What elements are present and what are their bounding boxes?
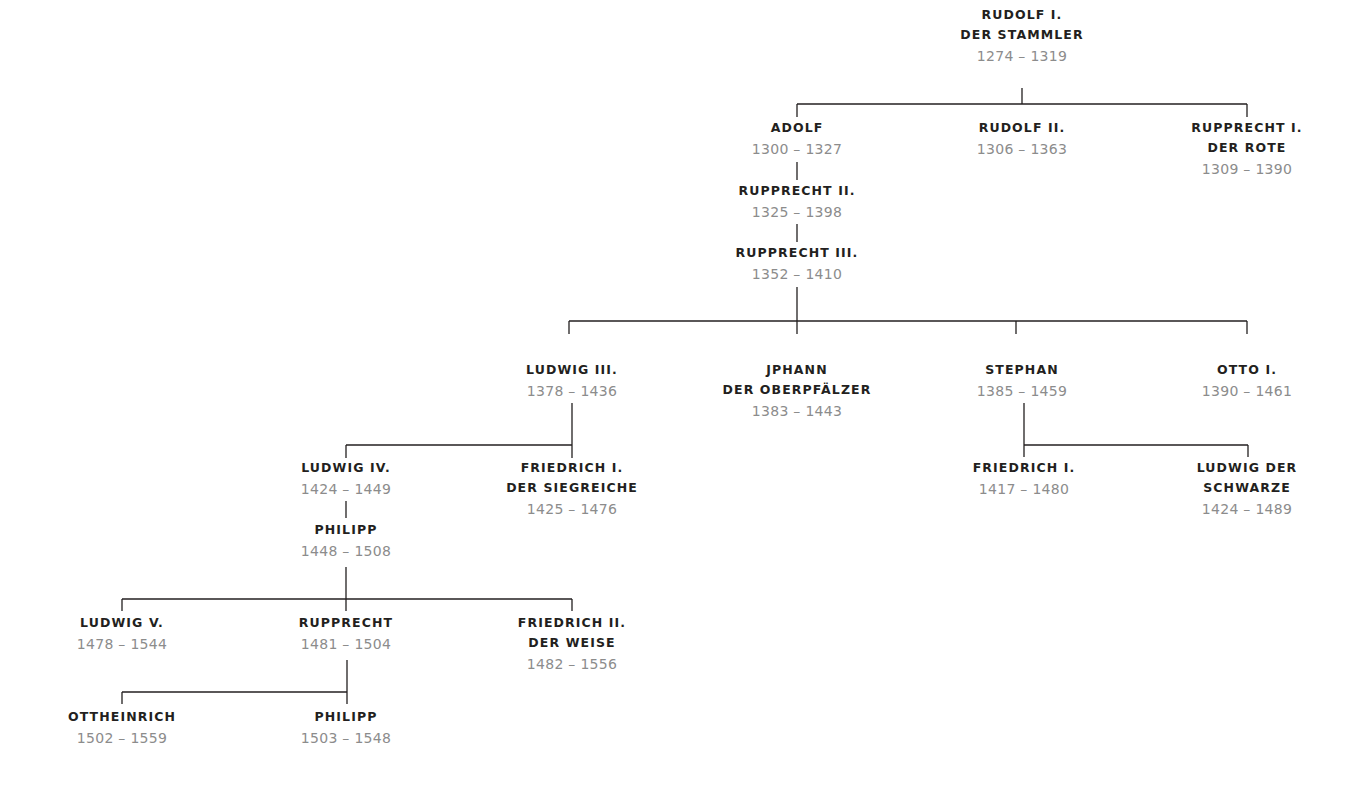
person-years: 1482 – 1556 <box>462 653 682 675</box>
person-name: LUDWIG DER <box>1137 458 1357 478</box>
person-ludwig-der-schwarze: LUDWIG DER SCHWARZE 1424 – 1489 <box>1137 458 1357 520</box>
person-name: RUPPRECHT II. <box>687 181 907 201</box>
person-ludwig-v: LUDWIG V. 1478 – 1544 <box>12 613 232 655</box>
person-adolf: ADOLF 1300 – 1327 <box>687 118 907 160</box>
person-rupprecht: RUPPRECHT 1481 – 1504 <box>236 613 456 655</box>
person-years: 1424 – 1449 <box>236 478 456 500</box>
person-years: 1390 – 1461 <box>1137 380 1357 402</box>
person-name: LUDWIG V. <box>12 613 232 633</box>
person-epithet: DER ROTE <box>1137 138 1357 158</box>
person-name: STEPHAN <box>912 360 1132 380</box>
person-rupprecht-iii: RUPPRECHT III. 1352 – 1410 <box>687 243 907 285</box>
person-epithet: DER WEISE <box>462 633 682 653</box>
person-years: 1481 – 1504 <box>236 633 456 655</box>
person-years: 1478 – 1544 <box>12 633 232 655</box>
person-name: LUDWIG III. <box>462 360 682 380</box>
person-rudolf-i: RUDOLF I. DER STAMMLER 1274 – 1319 <box>912 5 1132 67</box>
person-years: 1448 – 1508 <box>236 540 456 562</box>
person-years: 1309 – 1390 <box>1137 158 1357 180</box>
person-epithet: DER STAMMLER <box>912 25 1132 45</box>
person-ludwig-iv: LUDWIG IV. 1424 – 1449 <box>236 458 456 500</box>
person-years: 1424 – 1489 <box>1137 498 1357 520</box>
person-rupprecht-i: RUPPRECHT I. DER ROTE 1309 – 1390 <box>1137 118 1357 180</box>
person-name: OTTHEINRICH <box>12 707 232 727</box>
person-johann: JPHANN DER OBERPFÄLZER 1383 – 1443 <box>687 360 907 422</box>
person-name: RUDOLF I. <box>912 5 1132 25</box>
person-years: 1502 – 1559 <box>12 727 232 749</box>
person-rupprecht-ii: RUPPRECHT II. 1325 – 1398 <box>687 181 907 223</box>
person-name: RUPPRECHT <box>236 613 456 633</box>
person-years: 1503 – 1548 <box>236 727 456 749</box>
family-tree-diagram: RUDOLF I. DER STAMMLER 1274 – 1319 ADOLF… <box>0 0 1364 797</box>
person-name: RUPPRECHT I. <box>1137 118 1357 138</box>
person-name: RUPPRECHT III. <box>687 243 907 263</box>
person-stephan: STEPHAN 1385 – 1459 <box>912 360 1132 402</box>
person-philipp: PHILIPP 1448 – 1508 <box>236 520 456 562</box>
person-epithet: SCHWARZE <box>1137 478 1357 498</box>
person-years: 1378 – 1436 <box>462 380 682 402</box>
person-ludwig-iii: LUDWIG III. 1378 – 1436 <box>462 360 682 402</box>
person-epithet: DER SIEGREICHE <box>462 478 682 498</box>
person-years: 1417 – 1480 <box>914 478 1134 500</box>
person-years: 1306 – 1363 <box>912 138 1132 160</box>
person-philipp-2: PHILIPP 1503 – 1548 <box>236 707 456 749</box>
person-otto-i: OTTO I. 1390 – 1461 <box>1137 360 1357 402</box>
person-epithet: DER OBERPFÄLZER <box>687 380 907 400</box>
person-years: 1385 – 1459 <box>912 380 1132 402</box>
person-name: OTTO I. <box>1137 360 1357 380</box>
person-friedrich-i-der-siegreiche: FRIEDRICH I. DER SIEGREICHE 1425 – 1476 <box>462 458 682 520</box>
person-name: ADOLF <box>687 118 907 138</box>
person-years: 1383 – 1443 <box>687 400 907 422</box>
person-years: 1425 – 1476 <box>462 498 682 520</box>
person-years: 1352 – 1410 <box>687 263 907 285</box>
person-name: JPHANN <box>687 360 907 380</box>
person-years: 1325 – 1398 <box>687 201 907 223</box>
person-ottheinrich: OTTHEINRICH 1502 – 1559 <box>12 707 232 749</box>
person-name: FRIEDRICH II. <box>462 613 682 633</box>
person-name: RUDOLF II. <box>912 118 1132 138</box>
person-years: 1300 – 1327 <box>687 138 907 160</box>
person-name: FRIEDRICH I. <box>914 458 1134 478</box>
person-rudolf-ii: RUDOLF II. 1306 – 1363 <box>912 118 1132 160</box>
person-friedrich-i: FRIEDRICH I. 1417 – 1480 <box>914 458 1134 500</box>
person-name: FRIEDRICH I. <box>462 458 682 478</box>
person-name: PHILIPP <box>236 707 456 727</box>
person-name: LUDWIG IV. <box>236 458 456 478</box>
person-friedrich-ii: FRIEDRICH II. DER WEISE 1482 – 1556 <box>462 613 682 675</box>
person-years: 1274 – 1319 <box>912 45 1132 67</box>
person-name: PHILIPP <box>236 520 456 540</box>
